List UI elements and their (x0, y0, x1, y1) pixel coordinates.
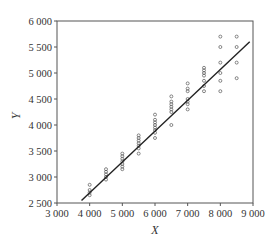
data-point (203, 90, 206, 93)
data-point (186, 82, 189, 85)
data-point (219, 46, 222, 49)
y-tick-label: 4 500 (28, 94, 52, 105)
data-point (88, 183, 91, 186)
data-point (235, 46, 238, 49)
y-tick-label: 2 500 (28, 198, 52, 209)
data-point (219, 35, 222, 38)
regression-line (82, 42, 250, 201)
y-axis: 2 5003 0003 5004 0004 5005 0005 5006 000 (28, 16, 57, 209)
y-tick-label: 5 000 (28, 68, 52, 79)
data-point (154, 113, 157, 116)
y-tick-label: 4 000 (28, 120, 52, 131)
data-point (235, 35, 238, 38)
y-tick-label: 3 000 (28, 172, 52, 183)
x-axis: 3 0004 0005 0006 0007 0008 0009 000 (45, 203, 265, 219)
y-tick-label: 5 500 (28, 42, 52, 53)
x-tick-label: 6 000 (143, 208, 167, 219)
data-point (235, 61, 238, 64)
x-tick-label: 5 000 (111, 208, 135, 219)
data-point (219, 90, 222, 93)
x-tick-label: 7 000 (176, 208, 200, 219)
x-tick-label: 9 000 (241, 208, 265, 219)
data-point (219, 79, 222, 82)
x-tick-label: 4 000 (78, 208, 102, 219)
data-point (235, 77, 238, 80)
x-axis-title: X (150, 223, 159, 237)
data-point (203, 79, 206, 82)
data-point (186, 108, 189, 111)
data-point (219, 61, 222, 64)
data-point (219, 72, 222, 75)
y-axis-title: Y (9, 111, 23, 119)
y-tick-label: 3 500 (28, 146, 52, 157)
plot-frame (57, 21, 253, 203)
data-point (170, 124, 173, 127)
x-tick-label: 3 000 (45, 208, 69, 219)
data-point (137, 152, 140, 155)
x-tick-label: 8 000 (209, 208, 233, 219)
y-tick-label: 6 000 (28, 16, 52, 27)
data-point (170, 95, 173, 98)
fit-line (82, 42, 250, 201)
scatter-chart: 2 5003 0003 5004 0004 5005 0005 5006 000… (0, 0, 279, 245)
data-point (154, 137, 157, 140)
